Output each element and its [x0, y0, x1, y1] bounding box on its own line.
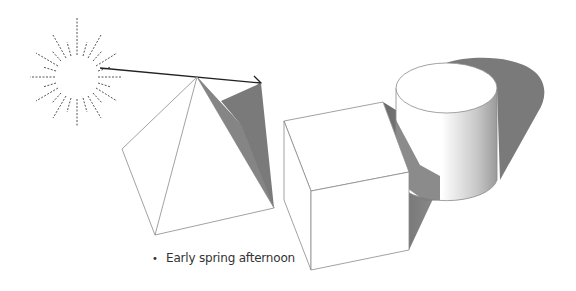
light-ray-arrow [100, 68, 261, 88]
bullet: • [152, 253, 166, 264]
cube [284, 102, 409, 270]
diagram-canvas: •Early spring afternoon [0, 0, 576, 291]
diagram-svg [0, 0, 576, 291]
caption: •Early spring afternoon [152, 251, 295, 265]
caption-text: Early spring afternoon [166, 251, 295, 265]
sun-icon [30, 18, 122, 127]
